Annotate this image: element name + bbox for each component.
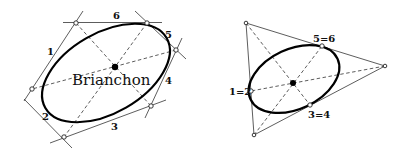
point-label-5-6: 5=6 — [313, 33, 335, 44]
brianchon-diagram: Brianchon 1 2 3 4 5 6 5=6 — [0, 0, 406, 156]
side-label-2: 2 — [42, 111, 49, 122]
brianchon-point-triangle — [290, 80, 296, 86]
side-label-1: 1 — [47, 46, 54, 57]
side-label-5: 5 — [165, 29, 172, 40]
side-label-6: 6 — [113, 10, 120, 21]
brianchon-point — [112, 64, 118, 70]
brianchon-title: Brianchon — [72, 71, 151, 89]
side-label-4: 4 — [165, 75, 172, 86]
point-label-3-4: 3=4 — [308, 109, 330, 120]
side-label-3: 3 — [111, 121, 118, 132]
triangle-figure: 5=6 1=2 3=4 — [229, 21, 387, 137]
point-label-1-2: 1=2 — [229, 86, 251, 97]
hexagon-figure: Brianchon 1 2 3 4 5 6 — [24, 3, 187, 148]
inscribed-ellipse — [238, 32, 350, 127]
